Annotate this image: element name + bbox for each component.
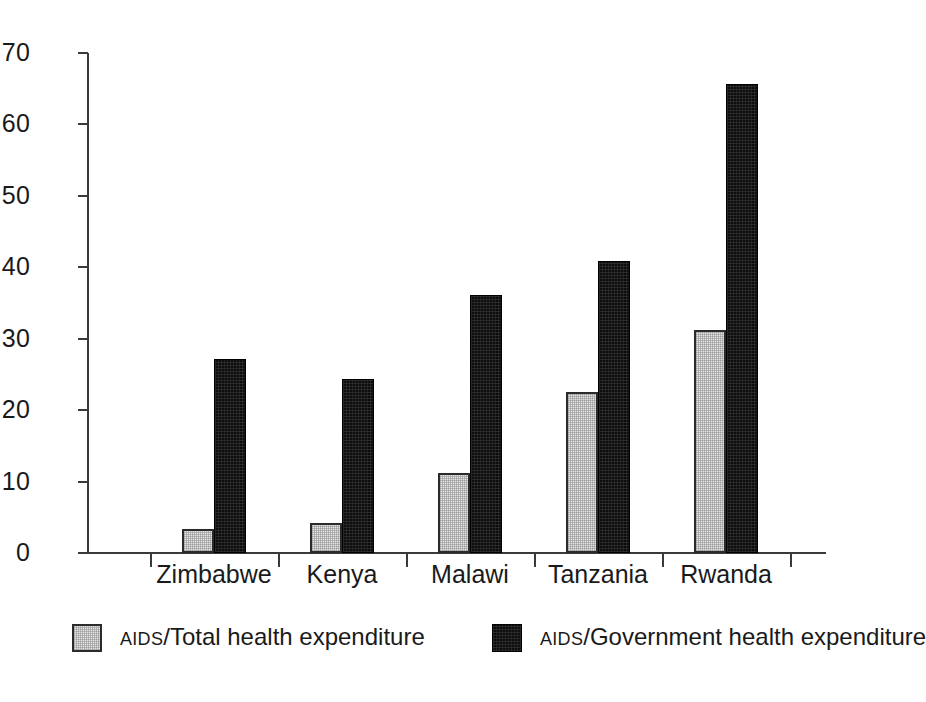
bar-zimbabwe-series-2 [214, 359, 246, 553]
bar-zimbabwe-series-1 [182, 529, 214, 553]
y-axis-tick-label: 70 [2, 40, 30, 65]
y-axis-tick-label: 20 [2, 397, 30, 422]
bar-rwanda-series-2 [726, 84, 758, 553]
bar-tanzania-series-1 [566, 392, 598, 553]
legend-swatch-light [72, 624, 102, 652]
bar-kenya-series-1 [310, 523, 342, 553]
x-axis-label-malawi: Malawi [406, 560, 534, 589]
x-axis-tick [790, 554, 792, 567]
legend-item-1[interactable]: AIDS/Total health expenditure [72, 623, 425, 653]
chart-legend: AIDS/Total health expenditureAIDS/Govern… [0, 615, 873, 675]
legend-label-2: AIDS/Government health expenditure [540, 623, 926, 653]
y-axis-tick-label: 10 [2, 469, 30, 494]
y-axis-tick-label: 40 [2, 254, 30, 279]
bar-malawi-series-2 [470, 295, 502, 553]
y-axis-tick-label: 30 [2, 326, 30, 351]
legend-label-rest: /Total health expenditure [163, 623, 425, 650]
legend-label-rest: /Government health expenditure [583, 623, 926, 650]
x-axis-label-kenya: Kenya [278, 560, 406, 589]
plot-area [87, 53, 825, 553]
legend-label-prefix: AIDS [540, 629, 583, 649]
bar-malawi-series-1 [438, 473, 470, 553]
legend-label-1: AIDS/Total health expenditure [120, 623, 425, 653]
y-axis-tick-label: 60 [2, 111, 30, 136]
legend-label-prefix: AIDS [120, 629, 163, 649]
bar-tanzania-series-2 [598, 261, 630, 553]
x-axis-label-rwanda: Rwanda [662, 560, 790, 589]
legend-item-2[interactable]: AIDS/Government health expenditure [492, 623, 926, 653]
bar-rwanda-series-1 [694, 330, 726, 553]
bar-kenya-series-2 [342, 379, 374, 553]
x-axis-label-tanzania: Tanzania [534, 560, 662, 589]
y-axis-tick-label: 50 [2, 183, 30, 208]
legend-swatch-dark [492, 624, 522, 652]
y-axis-tick-label: 0 [16, 540, 30, 565]
x-axis-label-zimbabwe: Zimbabwe [150, 560, 278, 589]
